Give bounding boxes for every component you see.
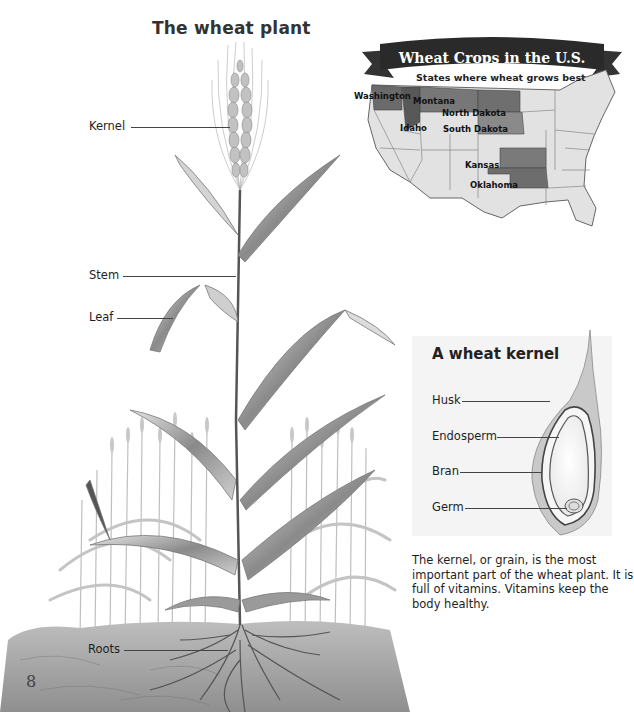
state-label-south-dakota: South Dakota <box>443 124 508 134</box>
leader-line-kernel <box>131 127 230 128</box>
leader-line-germ <box>465 508 567 509</box>
page-number: 8 <box>26 672 36 691</box>
label-germ: Germ <box>432 500 464 514</box>
leader-line-leaf <box>117 318 173 319</box>
us-wheat-map: Wheat Crops in the U.S. <box>350 30 634 250</box>
state-label-idaho: Idaho <box>400 123 427 133</box>
leader-line-roots <box>124 650 228 651</box>
plant-diagram-title: The wheat plant <box>152 18 311 38</box>
banner-title: Wheat Crops in the U.S. <box>398 50 586 66</box>
label-bran: Bran <box>432 464 459 478</box>
state-label-north-dakota: North Dakota <box>442 108 506 118</box>
leader-line-bran <box>460 472 542 473</box>
label-kernel: Kernel <box>89 119 125 133</box>
state-label-kansas: Kansas <box>465 160 499 170</box>
state-label-washington: Washington <box>354 91 411 101</box>
label-husk: Husk <box>432 393 461 407</box>
map-subtitle: States where wheat grows best <box>416 72 586 83</box>
kernel-caption: The kernel, or grain, is the most import… <box>412 553 634 611</box>
label-stem: Stem <box>89 268 119 282</box>
label-leaf: Leaf <box>89 310 113 324</box>
leader-line-husk <box>462 401 550 402</box>
label-roots: Roots <box>88 642 120 656</box>
leader-line-endosperm <box>497 437 559 438</box>
label-endosperm: Endosperm <box>432 429 497 443</box>
state-label-montana: Montana <box>413 96 455 106</box>
leader-line-stem <box>123 276 236 277</box>
state-label-oklahoma: Oklahoma <box>470 180 518 190</box>
